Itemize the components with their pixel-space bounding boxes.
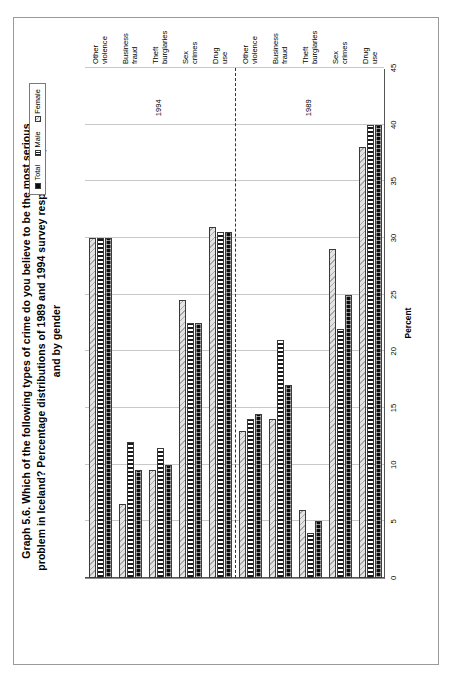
bar-total bbox=[375, 125, 382, 578]
bar-female bbox=[89, 238, 96, 578]
bar-female bbox=[209, 227, 216, 578]
period-label-1989: 1989 bbox=[304, 99, 313, 116]
bar-female bbox=[179, 300, 186, 578]
bar-male bbox=[157, 448, 164, 578]
legend-item-female: Female bbox=[33, 89, 42, 122]
category-label: Other violence bbox=[242, 36, 259, 64]
legend-label-total: Total bbox=[33, 165, 42, 181]
category-label: Drug use bbox=[362, 48, 379, 64]
period-label-1994: 1994 bbox=[154, 99, 163, 116]
bar-male bbox=[277, 340, 284, 578]
category-label: Business fraud bbox=[122, 33, 139, 64]
bar-female bbox=[329, 249, 336, 578]
bar-male bbox=[187, 323, 194, 578]
category-label: Drug use bbox=[212, 48, 229, 64]
value-tick-25: 25 bbox=[389, 290, 398, 298]
legend-swatch-total-icon bbox=[35, 183, 41, 189]
chart-title-line-3: and by gender bbox=[49, 25, 64, 657]
category-label: Theft burglaries bbox=[152, 31, 169, 64]
bar-female bbox=[239, 431, 246, 578]
bar-male bbox=[127, 442, 134, 578]
value-tick-5: 5 bbox=[389, 519, 398, 523]
figure-frame: Graph 5.6. Which of the following types … bbox=[13, 17, 439, 665]
legend-swatch-male-icon bbox=[35, 150, 41, 156]
chart-page: Graph 5.6. Which of the following types … bbox=[0, 0, 452, 681]
legend-item-total: Total bbox=[33, 165, 42, 189]
legend-label-female: Female bbox=[33, 89, 42, 114]
value-tick-30: 30 bbox=[389, 234, 398, 242]
category-label: Business fraud bbox=[272, 33, 289, 64]
bar-male bbox=[337, 329, 344, 578]
value-tick-0: 0 bbox=[389, 576, 398, 580]
category-label: Other violence bbox=[92, 36, 109, 64]
bar-male bbox=[97, 238, 104, 578]
bar-female bbox=[359, 147, 366, 578]
period-divider bbox=[235, 68, 236, 578]
category-label: Sex crimes bbox=[332, 42, 349, 64]
bar-male bbox=[247, 419, 254, 578]
bar-female bbox=[149, 470, 156, 578]
value-tick-35: 35 bbox=[389, 177, 398, 185]
bar-male bbox=[307, 533, 314, 578]
bar-total bbox=[255, 414, 262, 578]
category-label: Sex crimes bbox=[182, 42, 199, 64]
bar-total bbox=[225, 232, 232, 578]
bar-total bbox=[135, 470, 142, 578]
bar-total bbox=[285, 385, 292, 578]
bar-male bbox=[367, 125, 374, 578]
legend-label-male: Male bbox=[33, 131, 42, 147]
bar-male bbox=[217, 232, 224, 578]
value-tick-40: 40 bbox=[389, 120, 398, 128]
value-tick-20: 20 bbox=[389, 347, 398, 355]
plot-area: 454035302520151050 Percent Drug useSex c… bbox=[85, 69, 385, 579]
legend-swatch-female-icon bbox=[35, 116, 41, 122]
bar-total bbox=[315, 521, 322, 578]
value-tick-15: 15 bbox=[389, 404, 398, 412]
bar-total bbox=[165, 465, 172, 578]
value-axis-title: Percent bbox=[403, 68, 413, 578]
category-label: Theft burglaries bbox=[302, 31, 319, 64]
value-tick-45: 45 bbox=[389, 64, 398, 72]
bar-total bbox=[195, 323, 202, 578]
bar-female bbox=[299, 510, 306, 578]
bar-total bbox=[105, 238, 112, 578]
legend-item-male: Male bbox=[33, 131, 42, 156]
chart-stage: Graph 5.6. Which of the following types … bbox=[13, 17, 439, 665]
value-tick-10: 10 bbox=[389, 460, 398, 468]
chart-legend: Total Male Female bbox=[29, 83, 46, 195]
bar-female bbox=[119, 504, 126, 578]
bar-female bbox=[269, 419, 276, 578]
bar-total bbox=[345, 295, 352, 578]
